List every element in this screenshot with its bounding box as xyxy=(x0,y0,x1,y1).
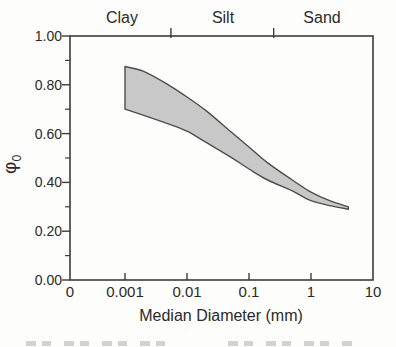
x-tick-label: 0 xyxy=(66,284,74,299)
top-axis-label-silt: Silt xyxy=(212,10,234,26)
cut-off-caption-fragment xyxy=(228,341,358,346)
y-tick-label: 0.80 xyxy=(35,78,62,92)
plot-frame xyxy=(70,36,373,280)
x-tick-label: 0.1 xyxy=(239,284,260,299)
y-axis-title: φ0 xyxy=(0,155,23,174)
x-axis-title: Median Diameter (mm) xyxy=(139,308,303,324)
y-tick-label: 1.00 xyxy=(35,29,62,43)
porosity-band xyxy=(125,67,348,210)
cut-off-caption-fragment xyxy=(26,341,176,346)
y-tick-label: 0.00 xyxy=(35,273,62,287)
y-tick-label: 0.40 xyxy=(35,175,62,189)
phi-symbol: φ xyxy=(0,162,20,174)
y-tick-label: 0.60 xyxy=(35,127,62,141)
porosity-vs-grain-size-figure: Clay Silt Sand φ0 Median Diameter (mm) 1… xyxy=(0,0,396,347)
x-tick-label: 10 xyxy=(365,284,382,299)
top-axis-label-sand: Sand xyxy=(303,10,340,26)
x-tick-label: 0.001 xyxy=(106,284,144,299)
x-tick-label: 1 xyxy=(307,284,315,299)
phi-subscript: 0 xyxy=(10,155,24,162)
x-tick-label: 0.01 xyxy=(172,284,201,299)
y-tick-label: 0.20 xyxy=(35,224,62,238)
top-axis-label-clay: Clay xyxy=(106,10,138,26)
